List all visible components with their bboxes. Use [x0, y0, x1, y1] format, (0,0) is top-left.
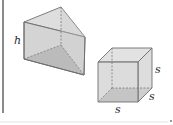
- cube: s s s: [98, 48, 161, 116]
- triangular-prism: h: [14, 7, 85, 75]
- figure-canvas: h s s s: [0, 0, 173, 125]
- cube-side-label-depth: s: [149, 90, 155, 103]
- cube-side-label-right: s: [155, 63, 161, 76]
- geometry-figure: h s s s: [0, 0, 173, 125]
- left-margin-rule: [2, 0, 4, 113]
- corner-mark: [170, 120, 172, 122]
- prism-height-label: h: [14, 34, 21, 47]
- cube-side-label-bottom: s: [115, 103, 121, 116]
